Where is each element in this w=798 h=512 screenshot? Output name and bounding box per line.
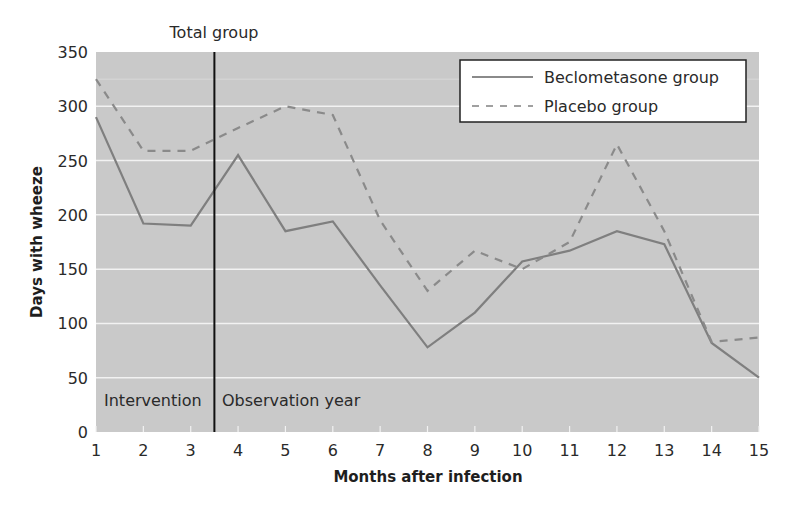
intervention-label: Intervention bbox=[104, 391, 202, 410]
x-tick-label: 6 bbox=[328, 441, 338, 460]
y-axis-ticks: 050100150200250300350 bbox=[57, 43, 88, 442]
observation-year-label: Observation year bbox=[222, 391, 361, 410]
chart-title: Total group bbox=[169, 23, 259, 42]
x-tick-label: 1 bbox=[91, 441, 101, 460]
y-tick-label: 50 bbox=[68, 369, 88, 388]
x-axis-ticks: 123456789101112131415 bbox=[91, 441, 769, 460]
x-axis-title: Months after infection bbox=[333, 468, 522, 486]
x-tick-label: 7 bbox=[375, 441, 385, 460]
x-tick-label: 14 bbox=[701, 441, 721, 460]
y-tick-label: 0 bbox=[78, 423, 88, 442]
x-tick-label: 3 bbox=[186, 441, 196, 460]
x-tick-label: 2 bbox=[138, 441, 148, 460]
x-tick-label: 10 bbox=[512, 441, 532, 460]
y-tick-label: 250 bbox=[57, 152, 88, 171]
y-tick-label: 150 bbox=[57, 260, 88, 279]
x-tick-label: 11 bbox=[559, 441, 579, 460]
x-tick-label: 4 bbox=[233, 441, 243, 460]
legend-placebo-label: Placebo group bbox=[544, 97, 658, 116]
y-tick-label: 350 bbox=[57, 43, 88, 62]
y-tick-label: 100 bbox=[57, 314, 88, 333]
x-tick-label: 12 bbox=[607, 441, 627, 460]
line-chart: 050100150200250300350 123456789101112131… bbox=[0, 0, 798, 512]
x-tick-label: 9 bbox=[470, 441, 480, 460]
y-axis-title: Days with wheeze bbox=[28, 166, 46, 318]
x-tick-label: 8 bbox=[422, 441, 432, 460]
legend: Beclometasone group Placebo group bbox=[460, 60, 746, 122]
x-tick-label: 15 bbox=[749, 441, 769, 460]
y-tick-label: 200 bbox=[57, 206, 88, 225]
x-tick-label: 13 bbox=[654, 441, 674, 460]
legend-beclometasone-label: Beclometasone group bbox=[544, 68, 719, 87]
x-tick-label: 5 bbox=[280, 441, 290, 460]
y-tick-label: 300 bbox=[57, 97, 88, 116]
